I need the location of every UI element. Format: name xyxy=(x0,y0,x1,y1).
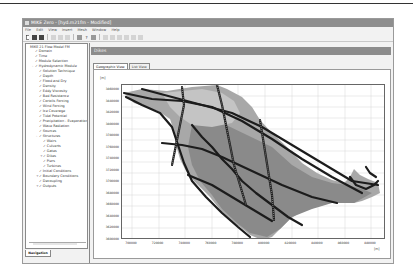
y-tick-label: 3820000 xyxy=(97,110,119,114)
y-tick-label: 3640000 xyxy=(97,214,119,218)
app-icon xyxy=(25,21,29,25)
tree-item-label: Time xyxy=(39,54,47,58)
tree-item[interactable]: ✓Piers xyxy=(40,159,55,163)
tree-item[interactable]: ✓Coriolis Forcing xyxy=(36,99,69,103)
y-tick-label: 3620000 xyxy=(97,225,119,229)
pan-icon[interactable] xyxy=(117,35,122,40)
toolbar-separator xyxy=(47,34,48,40)
menu-mesh[interactable]: Mesh xyxy=(77,28,86,32)
refresh-icon[interactable] xyxy=(138,35,143,40)
tree-item[interactable]: ✓Bed Resistance xyxy=(36,94,69,98)
tree-item-label: Culverts xyxy=(47,144,61,148)
checkmark-icon: ✓ xyxy=(39,79,42,83)
checkmark-icon: ✓ xyxy=(43,144,46,148)
tree-item[interactable]: ✓Domain xyxy=(32,49,52,53)
tree-item[interactable]: -✓Hydrodynamic Module xyxy=(32,64,77,68)
tree-item[interactable]: +✓Dikes xyxy=(40,154,56,158)
y-tick-label: 3720000 xyxy=(97,168,119,172)
tree-item[interactable]: ✓Gates xyxy=(40,149,57,153)
checkmark-icon: ✓ xyxy=(39,74,42,78)
new-file-icon[interactable] xyxy=(25,35,30,40)
x-tick-label: 840000 xyxy=(304,241,330,245)
tree-item[interactable]: ✓Tidal Potential xyxy=(36,114,67,118)
zoom-in-icon[interactable] xyxy=(103,35,108,40)
open-icon[interactable] xyxy=(32,35,37,40)
tree-item[interactable]: ✓Density xyxy=(36,84,56,88)
tree-item[interactable]: ✓Eddy Viscosity xyxy=(36,89,67,93)
y-tick-label: 3680000 xyxy=(97,191,119,195)
x-tick-label: 720000 xyxy=(145,241,171,245)
domain-map xyxy=(122,85,385,239)
tree-item-label: Solution Technique xyxy=(43,69,75,73)
tree-item[interactable]: ✓Culverts xyxy=(40,144,61,148)
toolbar-separator xyxy=(73,34,74,40)
tree-item-label: Bed Resistance xyxy=(43,94,69,98)
tree-item[interactable]: -✓Structures xyxy=(36,134,60,138)
tree-item[interactable]: +✓Outputs xyxy=(36,184,56,188)
menu-insert[interactable]: Insert xyxy=(62,28,72,32)
tree-item[interactable]: ✓Ice Coverage xyxy=(36,109,65,113)
next-view-icon[interactable] xyxy=(131,35,136,40)
tree-item[interactable]: ✓Module Selection xyxy=(32,59,68,63)
panel-title: Dikes xyxy=(91,47,391,55)
save-icon[interactable] xyxy=(39,35,44,40)
tree-item-label: Gates xyxy=(47,149,57,153)
navigation-tree: MIKE 21 Flow Model FM ✓Domain✓Time✓Modul… xyxy=(25,43,88,249)
main-panel: Dikes Geographic View List View [m] 3860… xyxy=(91,47,391,261)
checkmark-icon: ✓ xyxy=(35,59,38,63)
x-tick-label: 740000 xyxy=(171,241,197,245)
tree-item[interactable]: ✓Turbines xyxy=(40,164,61,168)
zoom-out-icon[interactable] xyxy=(110,35,115,40)
paste-icon[interactable] xyxy=(65,35,70,40)
checkmark-icon: ✓ xyxy=(39,179,42,183)
checkmark-icon: ✓ xyxy=(39,109,42,113)
checkmark-icon: ✓ xyxy=(39,104,42,108)
tree-item[interactable]: ✓Solution Technique xyxy=(36,69,75,73)
menu-edit[interactable]: Edit xyxy=(36,28,43,32)
tree-item-label: Flood and Dry xyxy=(43,79,67,83)
tree-item-label: Density xyxy=(43,84,56,88)
horizontal-scrollbar[interactable] xyxy=(29,242,86,246)
pane-splitter[interactable] xyxy=(89,43,90,263)
tree-item[interactable]: ✓Wave Radiation xyxy=(36,124,69,128)
tree-item-label: Boundary Conditions xyxy=(43,174,78,178)
whats-this-icon[interactable] xyxy=(91,35,96,40)
tab-navigation[interactable]: Navigation xyxy=(25,250,51,257)
map-canvas[interactable] xyxy=(121,84,385,239)
menu-view[interactable]: View xyxy=(48,28,57,32)
menu-help[interactable]: Help xyxy=(111,28,119,32)
checkmark-icon: ✓ xyxy=(39,84,42,88)
tree-item[interactable]: ✓Sources xyxy=(36,129,56,133)
copy-icon[interactable] xyxy=(58,35,63,40)
scrollbar-thumb[interactable] xyxy=(33,243,77,245)
previous-view-icon[interactable] xyxy=(124,35,129,40)
menu-file[interactable]: File xyxy=(25,28,31,32)
checkmark-icon: ✓ xyxy=(39,184,42,188)
tree-item[interactable]: ✓Wind Forcing xyxy=(36,104,65,108)
menu-window[interactable]: Window xyxy=(92,28,106,32)
tree-item[interactable]: ✓Initial Conditions xyxy=(36,169,71,173)
help-icon[interactable]: ? xyxy=(84,35,89,40)
tree-item[interactable]: ✓Weirs xyxy=(40,139,56,143)
tree-item[interactable]: ✓Time xyxy=(32,54,47,58)
cut-icon[interactable] xyxy=(51,35,56,40)
tree-item-label: Precipitation - Evaporation xyxy=(43,119,88,123)
title-bar: MIKE Zero - [hyd.m21fm - Modified] xyxy=(23,19,393,27)
checkmark-icon: ✓ xyxy=(39,99,42,103)
tree-item[interactable]: ✓Flood and Dry xyxy=(36,79,67,83)
print-icon[interactable] xyxy=(77,35,82,40)
checkmark-icon: ✓ xyxy=(35,49,38,53)
tree-item-label: Outputs xyxy=(43,184,57,188)
tree-item-label: Eddy Viscosity xyxy=(43,89,67,93)
tree-item[interactable]: ✓Decoupling xyxy=(36,179,62,183)
tree-item[interactable]: ✓Depth xyxy=(36,74,53,78)
y-tick-label: 3760000 xyxy=(97,145,119,149)
tree-item-label: Turbines xyxy=(47,164,61,168)
tree-item-label: Tidal Potential xyxy=(43,114,67,118)
checkmark-icon: ✓ xyxy=(39,94,42,98)
toolbar-separator xyxy=(99,34,100,40)
tree-item[interactable]: ✓Precipitation - Evaporation xyxy=(36,119,88,123)
tree-item[interactable]: +✓Boundary Conditions xyxy=(36,174,78,178)
y-tick-label: 3740000 xyxy=(97,156,119,160)
tree-item-label: Structures xyxy=(43,134,61,138)
